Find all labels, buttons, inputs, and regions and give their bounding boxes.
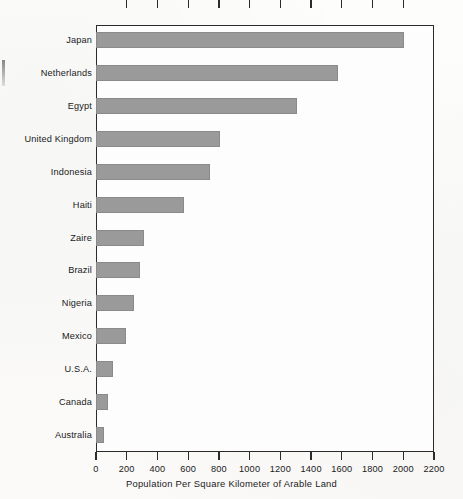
bottom-tick-1800 xyxy=(372,452,373,460)
category-label: U.S.A. xyxy=(65,364,92,374)
bottom-tick-0 xyxy=(95,452,96,460)
x-tick-label: 400 xyxy=(149,464,165,474)
bottom-tick-1200 xyxy=(280,452,281,460)
top-tick-1200 xyxy=(280,0,281,8)
top-tick-200 xyxy=(126,0,127,8)
x-tick-label: 600 xyxy=(180,464,196,474)
top-tick-1800 xyxy=(372,0,373,8)
bar xyxy=(96,230,144,246)
top-tick-1600 xyxy=(341,0,342,8)
bar xyxy=(96,164,210,180)
plot-frame xyxy=(96,25,434,452)
x-tick-label: 1400 xyxy=(300,464,321,474)
category-label: Nigeria xyxy=(62,298,92,308)
x-tick-label: 1800 xyxy=(362,464,383,474)
bar xyxy=(96,197,184,213)
category-label: Mexico xyxy=(62,331,92,341)
x-tick-label: 800 xyxy=(211,464,227,474)
bottom-tick-400 xyxy=(157,452,158,460)
x-tick-label: 200 xyxy=(119,464,135,474)
category-label: Brazil xyxy=(68,265,92,275)
category-label: Canada xyxy=(59,397,92,407)
x-tick-label: 1200 xyxy=(270,464,291,474)
top-tick-400 xyxy=(157,0,158,8)
category-label: Indonesia xyxy=(51,167,92,177)
bar xyxy=(96,32,404,48)
bar xyxy=(96,98,297,114)
bottom-tick-800 xyxy=(218,452,219,460)
x-tick-label: 2000 xyxy=(393,464,414,474)
top-tick-800 xyxy=(218,0,219,8)
top-tick-1400 xyxy=(310,0,311,8)
category-label: Egypt xyxy=(68,101,92,111)
bar xyxy=(96,427,104,443)
bottom-tick-200 xyxy=(126,452,127,460)
category-label: Haiti xyxy=(73,200,92,210)
x-axis-title: Population Per Square Kilometer of Arabl… xyxy=(0,478,463,489)
category-label: Netherlands xyxy=(41,68,92,78)
bar xyxy=(96,394,108,410)
bar xyxy=(96,361,113,377)
bottom-tick-600 xyxy=(188,452,189,460)
x-tick-label: 0 xyxy=(93,464,98,474)
bar xyxy=(96,328,126,344)
top-tick-1000 xyxy=(249,0,250,8)
bottom-tick-1000 xyxy=(249,452,250,460)
x-tick-label: 2200 xyxy=(423,464,444,474)
category-label: Japan xyxy=(66,35,92,45)
bar xyxy=(96,131,220,147)
bar xyxy=(96,65,338,81)
bottom-tick-2200 xyxy=(433,452,434,460)
bottom-tick-2000 xyxy=(403,452,404,460)
category-label: Australia xyxy=(55,430,92,440)
population-density-bar-chart: JapanNetherlandsEgyptUnited KingdomIndon… xyxy=(0,0,463,499)
x-tick-label: 1000 xyxy=(239,464,260,474)
category-label: United Kingdom xyxy=(25,134,92,144)
bar xyxy=(96,262,140,278)
top-tick-600 xyxy=(188,0,189,8)
x-tick-label: 1600 xyxy=(331,464,352,474)
bottom-tick-1400 xyxy=(310,452,311,460)
bar xyxy=(96,295,134,311)
category-label: Zaire xyxy=(70,233,92,243)
top-tick-2000 xyxy=(403,0,404,8)
bottom-tick-1600 xyxy=(341,452,342,460)
